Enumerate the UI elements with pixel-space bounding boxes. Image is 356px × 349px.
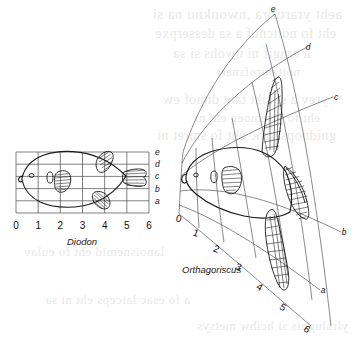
orthagoriscus-gill-slit — [211, 171, 217, 183]
orthagoriscus-dorsal-fin — [262, 77, 282, 157]
x-tick-label: 4 — [255, 281, 266, 294]
x-tick-label: 2 — [58, 220, 64, 231]
diodon-y-axis-labels: e d c b a — [155, 147, 160, 206]
y-tick-label: b — [342, 227, 347, 237]
x-tick-label: 1 — [192, 227, 201, 239]
x-tick-label: 1 — [35, 220, 41, 231]
orthagoriscus-body-outline — [182, 148, 292, 219]
y-tick-label: b — [155, 184, 160, 194]
x-tick-label: 4 — [102, 220, 108, 231]
diodon-caudal-fin — [123, 169, 147, 186]
y-tick-label: c — [334, 92, 339, 102]
x-tick-label: 6 — [146, 220, 152, 231]
y-tick-label: e — [155, 147, 160, 157]
orthagoriscus-eye-icon — [194, 173, 199, 177]
orthagoriscus-y-axis-labels: e d c b a — [271, 4, 347, 295]
y-tick-label: d — [306, 42, 311, 52]
orthagoriscus-panel: 0 1 2 3 4 5 6 e d c b a Orthagoriscus — [175, 4, 347, 336]
x-tick-label: 0 — [175, 213, 183, 225]
transformation-figure: 0 1 2 3 4 5 6 e d c b a Diodon — [0, 0, 356, 349]
diodon-x-axis-labels: 0 1 2 3 4 5 6 — [13, 220, 152, 231]
x-tick-label: 5 — [124, 220, 130, 231]
x-tick-label: 3 — [80, 220, 86, 231]
orthagoriscus-pectoral-fin — [222, 167, 242, 194]
y-tick-label: e — [271, 4, 276, 14]
diodon-grid — [16, 152, 149, 213]
diodon-gill-slit — [47, 172, 53, 183]
x-tick-label: 0 — [13, 220, 19, 231]
diodon-caption: Diodon — [67, 236, 97, 247]
diodon-eye-icon — [29, 174, 34, 178]
y-tick-label: d — [155, 159, 160, 169]
orthagoriscus-anal-fin — [265, 210, 289, 291]
orthagoriscus-grid — [179, 14, 341, 326]
diodon-body-outline — [19, 151, 126, 207]
orthagoriscus-caption: Orthagoriscus — [182, 264, 241, 275]
x-tick-label: 6 — [302, 323, 313, 335]
y-tick-label: c — [155, 171, 160, 181]
diodon-panel: 0 1 2 3 4 5 6 e d c b a Diodon — [13, 147, 160, 247]
y-tick-label: a — [321, 285, 326, 295]
y-tick-label: a — [155, 196, 160, 206]
diodon-pectoral-fin — [54, 171, 70, 193]
x-tick-label: 2 — [212, 243, 222, 255]
x-tick-label: 5 — [278, 301, 289, 313]
